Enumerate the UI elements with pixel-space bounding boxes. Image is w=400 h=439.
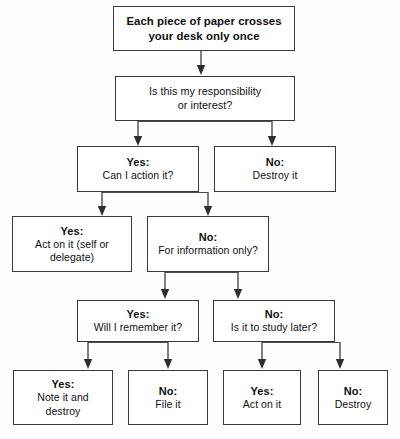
node-yes-note-it-and-destroy: Yes: Note it and destroy bbox=[13, 370, 113, 425]
node-no-is-it-to-study-later: No: Is it to study later? bbox=[213, 300, 335, 342]
node-yes-will-i-remember-it: Yes: Will I remember it? bbox=[77, 300, 199, 342]
node-lead: Yes: bbox=[126, 307, 149, 321]
node-no-file-it: No: File it bbox=[128, 370, 208, 425]
node-lead: Yes: bbox=[60, 224, 83, 238]
arrow-n6-to-n8 bbox=[232, 272, 244, 301]
node-line-2: destroy bbox=[46, 405, 81, 418]
flowchart-canvas: Each piece of paper crosses your desk on… bbox=[0, 0, 400, 439]
node-lead: No: bbox=[344, 384, 363, 398]
arrow-n7-to-n9 bbox=[82, 342, 94, 371]
node-lead: No: bbox=[159, 384, 178, 398]
node-lead: No: bbox=[266, 155, 285, 169]
connector-bus-n3 bbox=[102, 192, 208, 193]
node-no-destroy-it: No: Destroy it bbox=[214, 146, 336, 192]
node-no-destroy: No: Destroy bbox=[318, 370, 388, 425]
node-line-1: Is this my responsibility bbox=[149, 85, 261, 99]
node-body: Act on it bbox=[243, 398, 281, 411]
arrow-n2-to-n3 bbox=[132, 121, 144, 147]
node-body: Destroy it bbox=[253, 169, 298, 182]
node-body: Destroy bbox=[335, 398, 372, 411]
node-body: File it bbox=[155, 398, 180, 411]
node-body: Can I action it? bbox=[103, 169, 174, 182]
node-line-1: Act on it (self or bbox=[35, 238, 109, 251]
node-line-2: your desk only once bbox=[148, 29, 259, 44]
node-lead: Yes: bbox=[51, 377, 74, 391]
node-body: Is it to study later? bbox=[231, 321, 317, 334]
node-line-1: Each piece of paper crosses bbox=[126, 14, 281, 29]
arrow-n8-to-n12 bbox=[334, 342, 346, 371]
connector-bus-n8 bbox=[262, 342, 340, 343]
node-line-2: or interest? bbox=[178, 99, 233, 113]
arrow-n6-to-n7 bbox=[159, 272, 171, 301]
node-yes-act-on-it-self-or-delegate: Yes: Act on it (self or delegate) bbox=[12, 216, 132, 272]
connector-bus-n2 bbox=[138, 121, 272, 122]
node-no-for-information-only: No: For information only? bbox=[147, 216, 269, 272]
arrow-n3-to-n6 bbox=[202, 192, 214, 218]
node-yes-can-i-action-it: Yes: Can I action it? bbox=[77, 146, 199, 192]
node-line-2: delegate) bbox=[50, 251, 94, 264]
node-line-1: Note it and bbox=[37, 391, 88, 404]
node-paper-crosses-desk: Each piece of paper crosses your desk on… bbox=[113, 6, 295, 51]
node-lead: Yes: bbox=[250, 384, 273, 398]
node-lead: No: bbox=[199, 230, 218, 244]
arrow-n1-to-n2 bbox=[195, 51, 207, 76]
node-lead: Yes: bbox=[126, 155, 149, 169]
arrow-n3-to-n5 bbox=[96, 192, 108, 218]
arrow-n2-to-n4 bbox=[266, 121, 278, 147]
node-body: For information only? bbox=[158, 244, 258, 257]
node-yes-act-on-it: Yes: Act on it bbox=[223, 370, 301, 425]
node-body: Will I remember it? bbox=[94, 321, 182, 334]
arrow-n8-to-n11 bbox=[256, 342, 268, 371]
node-lead: No: bbox=[265, 307, 284, 321]
connector-bus-n6 bbox=[165, 272, 239, 273]
arrow-n7-to-n10 bbox=[162, 342, 174, 371]
node-is-this-my-responsibility: Is this my responsibility or interest? bbox=[115, 76, 295, 121]
connector-bus-n7 bbox=[88, 342, 168, 343]
